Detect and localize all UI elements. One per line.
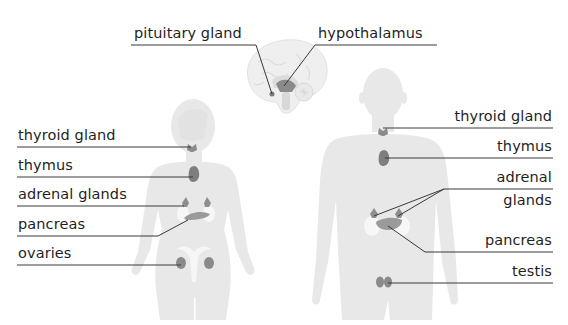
diagram-artwork [0, 0, 568, 325]
label-male-testis: testis [512, 264, 552, 279]
label-hypothalamus: hypothalamus [318, 26, 423, 41]
label-male-thyroid-gland: thyroid gland [454, 109, 552, 124]
male-right-testis [384, 277, 392, 288]
brain-illustration [247, 40, 327, 114]
label-male-adrenal-line2: glands [503, 193, 552, 208]
female-left-ovary [176, 257, 186, 269]
label-female-adrenal-glands: adrenal glands [18, 187, 127, 202]
label-male-thymus: thymus [497, 139, 552, 154]
female-thymus-gland [189, 166, 200, 182]
label-female-thyroid-gland: thyroid gland [18, 128, 116, 143]
endocrine-diagram: pituitary gland hypothalamus thyroid gla… [0, 0, 568, 325]
female-body [132, 99, 255, 320]
label-male-pancreas: pancreas [485, 233, 552, 248]
label-female-pancreas: pancreas [18, 217, 85, 232]
label-pituitary-gland: pituitary gland [134, 26, 242, 41]
female-right-ovary [204, 257, 214, 269]
label-female-thymus: thymus [18, 158, 73, 173]
male-left-testis [376, 277, 384, 288]
label-female-ovaries: ovaries [18, 246, 72, 261]
brainstem [282, 92, 290, 110]
label-male-adrenal-line1: adrenal [497, 170, 552, 185]
